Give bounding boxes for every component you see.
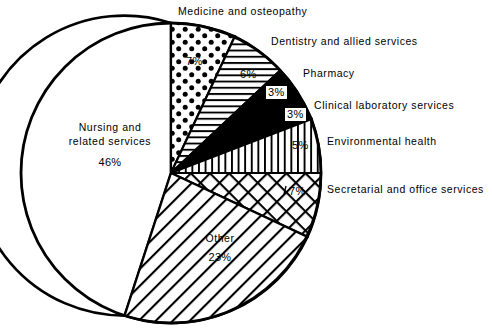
label-nursing-line-1: Nursing and [40,120,180,134]
label-environmental-health: Environmental health [327,135,437,148]
value-dentistry-and-allied-services: 6% [240,68,257,80]
label-pharmacy: Pharmacy [303,67,355,80]
label-secretarial-and-office-services: Secretarial and office services [327,183,484,196]
label-clinical-laboratory-services: Clinical laboratory services [314,99,454,112]
label-dentistry-and-allied-services: Dentistry and allied services [271,35,418,48]
value-other: 23% [170,250,270,264]
value-environmental-health: 5% [292,139,309,151]
value-pharmacy: 3% [265,85,288,100]
value-nursing-and-related-services: 46% [40,155,180,169]
pie-chart: Medicine and osteopathy Dentistry and al… [0,0,492,333]
label-other-text: Other [170,231,270,245]
label-medicine-and-osteopathy: Medicine and osteopathy [178,5,307,18]
label-nursing-line-2: related services [40,134,180,148]
label-other: Other 23% [170,231,270,264]
value-medicine-and-osteopathy: 7% [186,55,203,67]
label-nursing-and-related-services: Nursing and related services 46% [40,120,180,169]
value-clinical-laboratory-services: 3% [284,107,307,122]
value-secretarial-and-office-services: 7% [289,185,306,197]
